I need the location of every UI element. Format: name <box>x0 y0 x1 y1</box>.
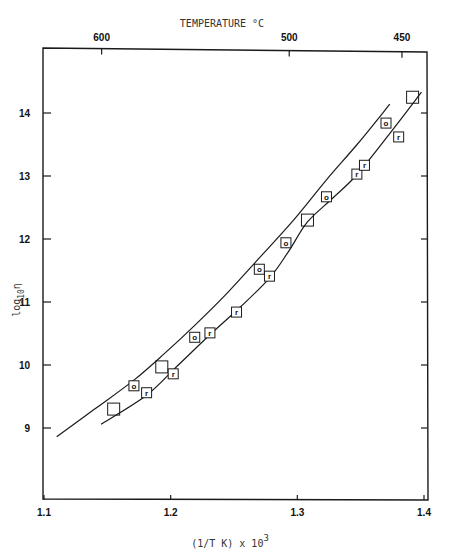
plot-frame <box>43 48 428 500</box>
marker-label: r <box>208 329 211 338</box>
lower-fit-curve <box>101 92 421 424</box>
x-tick-label: 1.1 <box>37 507 51 518</box>
y-tick-label: 13 <box>19 171 31 182</box>
data-point-o: o <box>281 238 291 248</box>
marker-label: o <box>384 119 389 128</box>
marker-label: r <box>363 161 366 170</box>
data-point-r: r <box>394 132 404 142</box>
top-tick-label: 450 <box>394 32 411 43</box>
data-point-r: r <box>168 369 178 379</box>
data-point-r: r <box>264 271 274 281</box>
chart: 1.11.21.31.491011121314600500450 oooooor… <box>0 0 452 556</box>
square-marker <box>407 91 419 103</box>
x-tick-label: 1.4 <box>417 507 431 518</box>
square-marker <box>156 361 168 373</box>
x-axis-title: (1/T K) x 103 <box>191 533 269 549</box>
data-point-blank <box>108 403 120 415</box>
data-point-o: o <box>381 118 391 128</box>
y-axis-title-main: log <box>11 299 22 317</box>
data-point-o: o <box>129 381 139 391</box>
y-tick-label: 10 <box>19 360 31 371</box>
square-marker <box>108 403 120 415</box>
top-tick-label: 500 <box>281 32 298 43</box>
data-point-blank <box>407 91 419 103</box>
data-point-r: r <box>142 388 152 398</box>
y-axis-title-sub: 10 <box>17 289 26 299</box>
fit-curves <box>57 92 422 437</box>
data-point-o: o <box>254 264 264 274</box>
x-tick-label: 1.2 <box>164 507 178 518</box>
marker-label: r <box>145 389 148 398</box>
square-marker <box>301 214 313 226</box>
marker-label: r <box>172 370 175 379</box>
marker-label: o <box>192 333 197 342</box>
y-tick-label: 14 <box>19 108 31 119</box>
y-tick-label: 9 <box>24 423 30 434</box>
data-point-blank <box>156 361 168 373</box>
marker-label: o <box>324 193 329 202</box>
y-tick-label: 12 <box>19 234 31 245</box>
plot-border <box>43 48 428 500</box>
axis-labels: TEMPERATURE °C (1/T K) x 103 log10η <box>11 18 269 549</box>
upper-fit-curve <box>57 104 390 437</box>
x-axis-title-sup: 3 <box>263 533 268 543</box>
marker-label: o <box>131 382 136 391</box>
axis-ticks: 1.11.21.31.491011121314600500450 <box>19 32 432 518</box>
top-tick-label: 600 <box>93 32 110 43</box>
marker-label: o <box>257 265 262 274</box>
data-point-r: r <box>359 160 369 170</box>
data-point-blank <box>301 214 313 226</box>
marker-label: r <box>355 170 358 179</box>
marker-label: o <box>283 239 288 248</box>
data-point-o: o <box>190 332 200 342</box>
data-point-r: r <box>232 307 242 317</box>
marker-label: r <box>268 272 271 281</box>
data-point-r: r <box>205 328 215 338</box>
x-tick-label: 1.3 <box>290 507 304 518</box>
y-axis-title-sym: η <box>11 283 22 289</box>
x-axis-title-main: (1/T K) x 10 <box>191 538 263 549</box>
marker-label: r <box>397 133 400 142</box>
marker-label: r <box>235 308 238 317</box>
top-axis-title: TEMPERATURE °C <box>180 18 264 29</box>
data-point-o: o <box>321 192 331 202</box>
